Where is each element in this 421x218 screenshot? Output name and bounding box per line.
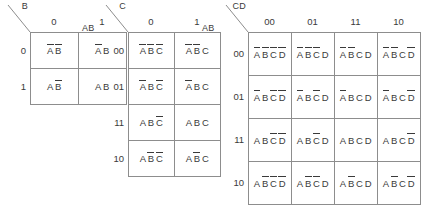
literal-B-negated: B: [347, 178, 355, 189]
minterm-expression: ABC: [185, 117, 210, 128]
column-variable-label: C: [119, 1, 126, 11]
minterm-expression: ABCD: [253, 178, 287, 189]
row-variable-label: AB: [202, 23, 214, 33]
literal-A-negated: A: [94, 45, 102, 56]
kmap-cell[interactable]: ABC: [175, 33, 221, 69]
row-header-0: 0: [8, 32, 26, 68]
minterm-expression: ABCD: [253, 92, 287, 103]
literal-A: A: [296, 178, 304, 189]
kmap-cell[interactable]: ABCD: [378, 162, 421, 205]
literal-D-negated: D: [407, 178, 416, 189]
literal-D-negated: D: [278, 92, 287, 103]
minterm-expression: ABC: [185, 45, 210, 56]
literal-A-negated: A: [296, 92, 304, 103]
literal-C: C: [355, 49, 364, 60]
minterm-expression: ABCD: [339, 135, 373, 146]
kmap-cell[interactable]: ABCD: [378, 33, 421, 76]
kmap-cell[interactable]: ABCD: [249, 76, 292, 119]
minterm-expression: ABC: [185, 81, 210, 92]
literal-C: C: [398, 135, 407, 146]
literal-C: C: [355, 135, 364, 146]
column-variable-label: B: [22, 1, 28, 11]
kmap-grid: ABCABCABCABCABCABCABCABC: [128, 32, 221, 177]
literal-A: A: [185, 117, 193, 128]
kmap-cell[interactable]: ABCD: [292, 162, 335, 205]
literal-D: D: [364, 92, 373, 103]
kmap-cell[interactable]: ABCD: [292, 33, 335, 76]
literal-C-negated: C: [312, 92, 321, 103]
minterm-expression: ABCD: [382, 178, 416, 189]
literal-B-negated: B: [55, 45, 63, 56]
literal-A: A: [253, 178, 261, 189]
minterm-expression: ABC: [139, 81, 164, 92]
kmap-cell[interactable]: ABCD: [249, 33, 292, 76]
minterm-expression: ABCD: [296, 178, 330, 189]
kmap-cell[interactable]: ABCD: [335, 162, 378, 205]
minterm-expression: ABCD: [339, 92, 373, 103]
literal-A: A: [382, 135, 390, 146]
literal-D: D: [364, 49, 373, 60]
literal-B-negated: B: [193, 45, 201, 56]
literal-D: D: [321, 135, 330, 146]
kmap-cell[interactable]: ABCD: [249, 119, 292, 162]
minterm-expression: ABCD: [296, 92, 330, 103]
column-header-0: 0: [30, 16, 78, 28]
literal-B-negated: B: [147, 153, 155, 164]
kmap-cell[interactable]: ABC: [175, 141, 221, 177]
literal-A-negated: A: [339, 92, 347, 103]
kmap-cell[interactable]: ABC: [129, 141, 175, 177]
literal-A-negated: A: [382, 49, 390, 60]
row-header-01: 01: [106, 68, 124, 104]
kmap-cell[interactable]: ABCD: [378, 76, 421, 119]
kmap-cell[interactable]: ABCD: [335, 33, 378, 76]
minterm-expression: AB: [46, 45, 62, 56]
row-headers: 00011110: [106, 32, 124, 176]
kmap-cell[interactable]: ABCD: [335, 76, 378, 119]
literal-A-negated: A: [253, 49, 261, 60]
literal-D: D: [321, 49, 330, 60]
literal-D-negated: D: [278, 178, 287, 189]
literal-D-negated: D: [278, 49, 287, 60]
row-header-1: 1: [8, 68, 26, 104]
literal-B: B: [304, 135, 312, 146]
minterm-expression: ABCD: [382, 135, 416, 146]
kmap-grid: ABCDABCDABCDABCDABCDABCDABCDABCDABCDABCD…: [248, 32, 421, 205]
literal-A: A: [94, 81, 102, 92]
minterm-expression: ABCD: [339, 178, 373, 189]
literal-C: C: [398, 178, 407, 189]
literal-C: C: [201, 153, 210, 164]
literal-C-negated: C: [155, 117, 164, 128]
kmap-cell[interactable]: ABC: [175, 105, 221, 141]
kmap-cell[interactable]: ABCD: [249, 162, 292, 205]
kmap-cell[interactable]: ABCD: [292, 76, 335, 119]
row-header-10: 10: [106, 140, 124, 176]
literal-B: B: [390, 92, 398, 103]
literal-A: A: [253, 135, 261, 146]
literal-C-negated: C: [269, 49, 278, 60]
kmap-cell[interactable]: ABC: [175, 69, 221, 105]
literal-D-negated: D: [278, 135, 287, 146]
minterm-expression: ABCD: [296, 49, 330, 60]
literal-A-negated: A: [185, 45, 193, 56]
kmap-cell[interactable]: ABC: [129, 69, 175, 105]
kmap-cell[interactable]: ABC: [129, 105, 175, 141]
minterm-expression: ABCD: [253, 135, 287, 146]
kmap-cell[interactable]: ABCD: [292, 119, 335, 162]
kmap-cell[interactable]: AB: [31, 33, 79, 69]
literal-B: B: [347, 92, 355, 103]
row-header-00: 00: [226, 32, 244, 75]
literal-D-negated: D: [407, 92, 416, 103]
kmap-cell[interactable]: AB: [31, 69, 79, 105]
literal-A: A: [296, 135, 304, 146]
literal-A-negated: A: [46, 45, 54, 56]
kmap-cell[interactable]: ABCD: [335, 119, 378, 162]
literal-B-negated: B: [390, 49, 398, 60]
literal-A-negated: A: [339, 49, 347, 60]
literal-B: B: [304, 92, 312, 103]
literal-C: C: [201, 117, 210, 128]
literal-A: A: [185, 153, 193, 164]
kmap-cell[interactable]: ABCD: [378, 119, 421, 162]
kmap-cell[interactable]: ABC: [129, 33, 175, 69]
minterm-expression: ABCD: [253, 49, 287, 60]
literal-B-negated: B: [193, 153, 201, 164]
